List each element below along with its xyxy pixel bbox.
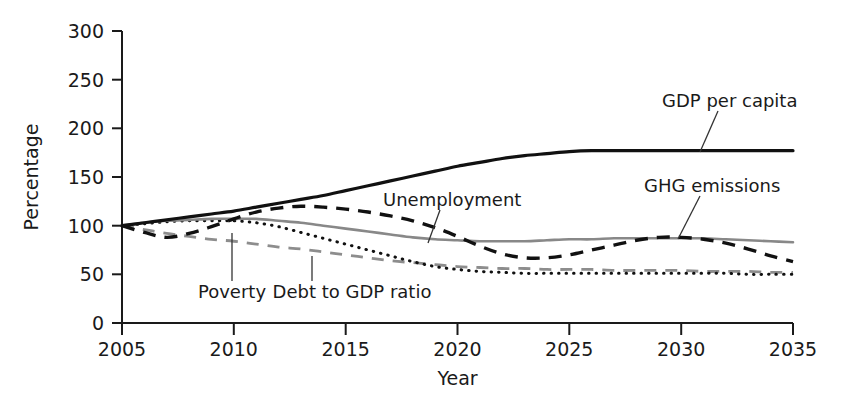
series-label-debt-to-gdp-ratio: Debt to GDP ratio — [273, 281, 432, 302]
y-tick-label: 300 — [68, 20, 104, 42]
y-tick-label: 150 — [68, 166, 104, 188]
series-line-poverty — [122, 226, 793, 273]
line-chart: 300 250 200 150 100 50 0 2005 2010 2015 … — [0, 0, 850, 400]
x-tick-label: 2035 — [769, 338, 817, 360]
x-tick-label: 2010 — [210, 338, 258, 360]
x-tick-label: 2015 — [322, 338, 370, 360]
leader-line-gdp — [700, 111, 718, 152]
y-tick-label: 100 — [68, 215, 104, 237]
series-line-unemployment — [122, 206, 793, 262]
y-axis-ticks — [112, 31, 122, 323]
x-axis-title: Year — [436, 367, 477, 389]
series-label-unemployment: Unemployment — [383, 189, 521, 210]
x-tick-label: 2030 — [657, 338, 705, 360]
x-tick-label: 2005 — [98, 338, 146, 360]
y-tick-label: 250 — [68, 69, 104, 91]
y-axis-title: Percentage — [20, 124, 42, 231]
x-tick-label: 2020 — [433, 338, 481, 360]
y-tick-label: 0 — [92, 312, 104, 334]
series-label-ghg-emissions: GHG emissions — [644, 175, 780, 196]
x-axis-ticks — [122, 323, 793, 335]
x-tick-label: 2025 — [545, 338, 593, 360]
y-tick-label: 200 — [68, 117, 104, 139]
series-label-poverty: Poverty — [198, 281, 266, 302]
series-label-gdp-per-capita: GDP per capita — [662, 90, 797, 111]
y-axis-tick-labels: 300 250 200 150 100 50 0 — [68, 20, 104, 334]
series-line-ghg-emissions — [122, 219, 793, 243]
chart-container: 300 250 200 150 100 50 0 2005 2010 2015 … — [0, 0, 850, 400]
y-tick-label: 50 — [80, 263, 104, 285]
series-group — [122, 151, 793, 275]
x-axis-tick-labels: 2005 2010 2015 2020 2025 2030 2035 — [98, 338, 817, 360]
leader-line-ghg — [678, 196, 700, 239]
